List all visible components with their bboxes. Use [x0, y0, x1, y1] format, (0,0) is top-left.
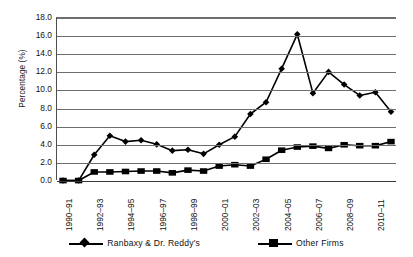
gridline-14.0 [57, 54, 396, 55]
x-tick-label: 1990–91 [65, 199, 73, 231]
x-tick-label: 1998–99 [190, 199, 198, 231]
x-axis-tick-labels: 1990–911992–931994–951996–971998–992000–… [56, 181, 396, 233]
data-point-square [325, 146, 332, 152]
data-point-square [262, 156, 269, 162]
data-point-square [247, 163, 254, 169]
data-point-diamond [138, 137, 145, 144]
data-point-square [200, 168, 207, 174]
y-tick-8.0: 8.0 [2, 104, 52, 112]
y-tick-2.0: 2.0 [2, 158, 52, 166]
x-tick-label: 2002–03 [252, 199, 260, 231]
data-point-diamond [200, 151, 207, 158]
data-point-square [278, 147, 285, 153]
data-point-diamond [169, 147, 176, 154]
gridline-10.0 [57, 90, 396, 91]
gridline-6.0 [57, 127, 396, 128]
y-tick-4.0: 4.0 [2, 140, 52, 148]
x-tick-label: 2004–05 [284, 199, 292, 231]
plot-area [56, 17, 396, 180]
data-point-square [91, 169, 98, 175]
legend-item-1[interactable]: Ranbaxy & Dr. Reddy's [69, 238, 200, 249]
gridline-4.0 [57, 145, 396, 146]
legend-marker [80, 238, 90, 248]
x-tick-label: 1992–93 [96, 199, 104, 231]
y-tick-16.0: 16.0 [2, 31, 52, 39]
data-point-diamond [185, 146, 192, 153]
gridline-16.0 [57, 36, 396, 37]
data-point-square [122, 169, 129, 175]
data-point-square [153, 168, 160, 174]
y-tick-18.0: 18.0 [2, 13, 52, 21]
legend-item-2[interactable]: Other Firms [258, 238, 344, 249]
legend-marker [269, 239, 278, 247]
x-tick-label: 2008–09 [346, 199, 354, 231]
series-line [63, 34, 391, 180]
y-axis-tick-labels: 0.02.04.06.08.010.012.014.016.018.0 [0, 17, 52, 180]
data-point-square [106, 169, 113, 175]
series-layer [57, 18, 397, 181]
y-tick-12.0: 12.0 [2, 67, 52, 75]
line-chart: Percentage (%) 0.02.04.06.08.010.012.014… [0, 0, 413, 257]
x-tick-label: 2010–11 [377, 199, 385, 231]
legend-square-icon [258, 238, 292, 249]
data-point-square [137, 168, 144, 174]
y-tick-10.0: 10.0 [2, 85, 52, 93]
gridline-2.0 [57, 163, 396, 164]
x-tick-label: 1994–95 [127, 199, 135, 231]
y-tick-0.0: 0.0 [2, 176, 52, 184]
data-point-square [184, 167, 191, 173]
chart-legend: Ranbaxy & Dr. Reddy'sOther Firms [0, 233, 413, 253]
legend-diamond-icon [69, 238, 103, 249]
data-point-square [169, 170, 176, 176]
y-tick-14.0: 14.0 [2, 49, 52, 57]
data-point-diamond [278, 65, 285, 72]
data-point-square [387, 139, 394, 145]
gridline-18.0 [57, 18, 396, 19]
legend-label: Ranbaxy & Dr. Reddy's [107, 238, 200, 248]
gridline-12.0 [57, 72, 396, 73]
data-point-square [215, 163, 222, 169]
x-tick-label: 1996–97 [159, 199, 167, 231]
y-tick-6.0: 6.0 [2, 122, 52, 130]
x-tick-label: 2006–07 [315, 199, 323, 231]
x-tick-label: 2000–01 [221, 199, 229, 231]
gridline-8.0 [57, 109, 396, 110]
legend-label: Other Firms [296, 238, 344, 248]
